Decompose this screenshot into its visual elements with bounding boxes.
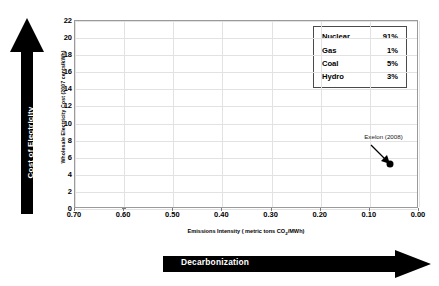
x-tick-label: 0.10	[362, 210, 377, 219]
legend-row: Coal5%	[314, 57, 406, 70]
x-tick-label: 0.60	[116, 210, 131, 219]
gridline-horizontal	[75, 38, 417, 39]
y-tick-label: 16	[64, 68, 72, 75]
gridline-vertical	[419, 21, 420, 207]
gridline-horizontal	[75, 89, 417, 90]
legend-row-label: Nuclear	[322, 32, 350, 41]
x-tick-mark	[172, 208, 173, 211]
gridline-vertical	[272, 21, 273, 207]
x-tick-mark	[123, 208, 124, 211]
x-tick-label: 0.20	[312, 210, 327, 219]
decarbonization-arrow: Decarbonization	[163, 250, 431, 278]
y-tick-label: 12	[64, 102, 72, 109]
legend-row: Nuclear91%	[314, 30, 406, 43]
gridline-horizontal	[75, 72, 417, 73]
legend-row-label: Hydro	[322, 72, 344, 81]
gridline-horizontal	[75, 175, 417, 176]
x-tick-label: 0.50	[165, 210, 180, 219]
gridline-vertical	[75, 21, 76, 207]
cost-of-electricity-label: Cost of Electricity	[26, 87, 35, 199]
legend-row-value: 5%	[387, 59, 398, 68]
x-axis-ticks: 0.700.600.500.400.300.200.100.00	[74, 210, 418, 222]
y-tick-label: 14	[64, 85, 72, 92]
x-tick-mark	[369, 208, 370, 211]
y-tick-label: 20	[64, 34, 72, 41]
gridline-vertical	[321, 21, 322, 207]
y-tick-label: 18	[64, 51, 72, 58]
gridline-horizontal	[75, 141, 417, 142]
x-tick-mark	[320, 208, 321, 211]
legend-row-label: Coal	[322, 59, 338, 68]
gridline-horizontal	[75, 21, 417, 22]
x-tick-label: 0.30	[263, 210, 278, 219]
legend-row-value: 3%	[387, 72, 398, 81]
cost-of-electricity-arrow: Cost of Electricity	[10, 18, 44, 214]
x-tick-mark	[221, 208, 222, 211]
plot-area: Nuclear91%Gas1%Coal5%Hydro3% Exelon (200…	[74, 20, 418, 208]
gridline-vertical	[222, 21, 223, 207]
y-tick-label: 22	[64, 17, 72, 24]
x-tick-mark	[271, 208, 272, 211]
y-tick-label: 8	[68, 136, 72, 143]
fuel-mix-legend: Nuclear91%Gas1%Coal5%Hydro3%	[313, 26, 407, 88]
y-tick-label: 10	[64, 119, 72, 126]
y-tick-label: 2	[68, 187, 72, 194]
gridline-vertical	[370, 21, 371, 207]
x-axis-title-prefix: Emissions Intensity ( metric tons CO	[188, 228, 286, 234]
gridline-horizontal	[75, 55, 417, 56]
gridline-horizontal	[75, 192, 417, 193]
data-point-label: Exelon (2008)	[364, 132, 403, 139]
data-point	[386, 160, 393, 167]
gridline-vertical	[124, 21, 125, 207]
y-axis-ticks: 0246810121416182022	[52, 20, 72, 208]
gridline-horizontal	[75, 124, 417, 125]
chart-figure: Cost of Electricity Wholesale Electricit…	[0, 0, 439, 286]
x-axis-title: Emissions Intensity ( metric tons CO2/MW…	[74, 228, 418, 236]
x-tick-label: 0.70	[67, 210, 82, 219]
x-tick-label: 0.40	[214, 210, 229, 219]
x-tick-mark	[418, 208, 419, 211]
y-tick-label: 4	[68, 170, 72, 177]
y-tick-label: 6	[68, 153, 72, 160]
x-tick-mark	[74, 208, 75, 211]
gridline-horizontal	[75, 158, 417, 159]
legend-row-value: 91%	[383, 32, 398, 41]
x-axis-title-suffix: /MWh)	[288, 228, 305, 234]
x-tick-label: 0.00	[411, 210, 426, 219]
legend-row-value: 1%	[387, 46, 398, 55]
legend-row-label: Gas	[322, 46, 336, 55]
decarbonization-label: Decarbonization	[181, 257, 249, 267]
gridline-vertical	[173, 21, 174, 207]
gridline-horizontal	[75, 106, 417, 107]
